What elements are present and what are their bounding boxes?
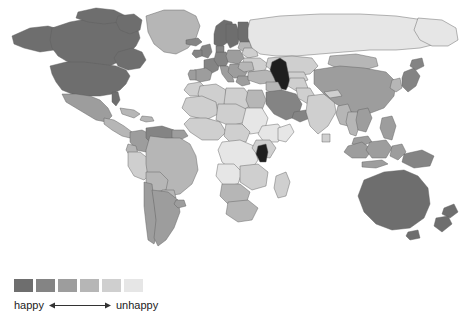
country-us-florida xyxy=(112,92,120,106)
legend-swatch-6 xyxy=(124,279,143,292)
legend-swatch-1 xyxy=(14,279,33,292)
country-mexico xyxy=(62,94,112,122)
double-headed-arrow-icon xyxy=(49,300,111,311)
country-central-america xyxy=(104,118,132,138)
country-sri-lanka xyxy=(322,134,330,142)
legend-label-happy: happy xyxy=(14,299,44,311)
country-denmark xyxy=(216,46,224,52)
legend-swatch-5 xyxy=(102,279,121,292)
country-indonesia-java xyxy=(362,160,388,168)
country-united-states xyxy=(50,62,130,96)
country-philippines xyxy=(380,116,396,140)
legend-swatch-4 xyxy=(80,279,99,292)
world-happiness-map-figure: happy unhappy xyxy=(0,0,470,324)
country-ireland xyxy=(192,50,202,58)
country-egypt xyxy=(246,90,266,110)
world-map xyxy=(0,0,470,276)
country-south-africa xyxy=(226,200,258,222)
country-greenland xyxy=(146,10,200,54)
country-australia xyxy=(358,170,430,230)
legend-swatch-2 xyxy=(36,279,55,292)
legend-swatches xyxy=(14,279,214,292)
country-hispaniola xyxy=(140,116,154,122)
country-new-zealand-south xyxy=(434,216,452,232)
country-russia xyxy=(248,14,444,56)
country-indonesia-borneo xyxy=(366,140,392,158)
country-somalia xyxy=(278,124,294,142)
country-cuba xyxy=(120,108,140,118)
country-zambia-mozambique xyxy=(240,164,268,190)
legend-labels: happy unhappy xyxy=(14,297,214,313)
country-new-zealand-north xyxy=(442,204,458,218)
legend-swatch-3 xyxy=(58,279,77,292)
country-japan-north xyxy=(410,58,424,70)
country-madagascar xyxy=(274,172,290,198)
country-portugal xyxy=(188,70,196,80)
country-argentina xyxy=(152,190,180,246)
country-tasmania xyxy=(406,230,420,240)
country-japan xyxy=(402,68,420,92)
country-vietnam xyxy=(356,108,372,132)
legend-label-unhappy: unhappy xyxy=(116,299,158,311)
legend: happy unhappy xyxy=(14,279,214,319)
country-papua-new-guinea xyxy=(402,150,434,168)
